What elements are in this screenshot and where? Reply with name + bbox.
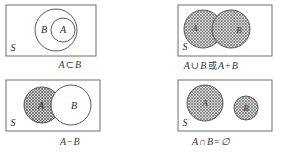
caption-operator: ⊂: [65, 59, 75, 70]
label-a: A: [191, 23, 198, 33]
caption-union: A∪B或A+B: [141, 59, 281, 72]
caption-alt-right-operand: B: [232, 60, 239, 71]
label-universe-s: S: [11, 117, 16, 128]
caption-difference: A−B: [0, 136, 140, 147]
venn-svg-difference: A B S: [0, 77, 140, 137]
panel-disjoint: A B S A∩B=∅: [141, 77, 281, 154]
label-a: A: [59, 24, 67, 35]
label-b: B: [236, 25, 242, 35]
caption-operator: ∪: [190, 60, 200, 71]
label-b: B: [41, 24, 47, 35]
circle-b: [212, 10, 250, 48]
venn-svg-disjoint: A B S: [141, 77, 281, 137]
caption-disjoint: A∩B=∅: [141, 136, 281, 147]
caption-alt-left-operand: A: [218, 60, 225, 71]
panel-subset: B A S A⊂B: [0, 0, 140, 77]
caption-right-operand: B: [74, 136, 81, 147]
panel-union: A B S A∪B或A+B: [141, 0, 281, 77]
caption-right-operand: B: [200, 60, 207, 71]
caption-operator: −: [66, 136, 73, 147]
venn-svg-union: A B S: [141, 0, 281, 60]
venn-diagram-figure: B A S A⊂B A B S A∪B或A+B: [0, 0, 281, 154]
label-a: A: [37, 100, 45, 111]
label-universe-s: S: [183, 41, 188, 52]
panel-difference: A B S A−B: [0, 77, 140, 154]
venn-svg-subset: B A S: [0, 0, 140, 60]
caption-subset: A⊂B: [0, 59, 140, 70]
label-a: A: [201, 98, 208, 108]
caption-right-operand: B: [207, 136, 214, 147]
label-universe-s: S: [11, 42, 16, 53]
caption-empty-set: ∅: [221, 136, 230, 147]
caption-operator: ∩: [198, 136, 207, 147]
caption-alt-operator: +: [225, 60, 232, 71]
caption-right-operand: B: [75, 59, 82, 70]
label-b: B: [71, 100, 77, 111]
caption-alt-conjunction: 或: [207, 61, 218, 71]
label-b: B: [243, 103, 249, 113]
caption-equals-sign: =: [214, 136, 221, 147]
label-universe-s: S: [183, 117, 188, 128]
